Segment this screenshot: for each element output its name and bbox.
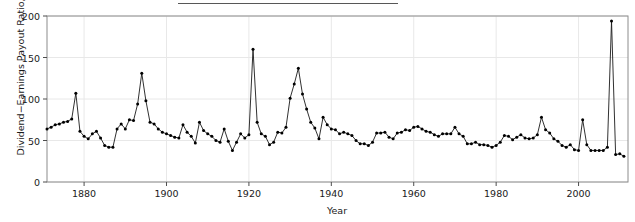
series-point — [280, 132, 283, 135]
series-point — [466, 142, 469, 145]
series-point — [396, 132, 399, 135]
series-point — [219, 141, 222, 144]
series-point — [548, 132, 551, 135]
series-point — [256, 121, 259, 124]
series-point — [87, 137, 90, 140]
series-point — [350, 134, 353, 137]
series-point — [458, 132, 461, 135]
series-point — [227, 140, 230, 143]
series-point — [149, 121, 152, 124]
series-point — [486, 144, 489, 147]
series-point — [453, 126, 456, 129]
series-point — [491, 146, 494, 149]
series-point — [556, 140, 559, 143]
series-point — [223, 127, 226, 130]
series-point — [264, 135, 267, 138]
series-point — [433, 133, 436, 136]
series-point — [532, 137, 535, 140]
series-point — [153, 122, 156, 125]
series-point — [322, 116, 325, 119]
series-point — [495, 144, 498, 147]
series-point — [231, 149, 234, 152]
series-point — [177, 137, 180, 140]
series-point — [425, 130, 428, 133]
series-point — [379, 132, 382, 135]
series-point — [589, 149, 592, 152]
series-point — [165, 132, 168, 135]
series-point — [552, 137, 555, 140]
series-point — [449, 132, 452, 135]
series-point — [342, 131, 345, 134]
series-point — [606, 146, 609, 149]
series-point — [511, 138, 514, 141]
series-point — [206, 132, 209, 135]
series-point — [95, 130, 98, 133]
series-point — [445, 132, 448, 135]
series-point — [462, 135, 465, 138]
series-point — [478, 143, 481, 146]
series-point — [330, 127, 333, 130]
series-point — [392, 137, 395, 140]
series-point — [120, 122, 123, 125]
series-point — [186, 131, 189, 134]
series-point — [210, 135, 213, 138]
series-point — [388, 136, 391, 139]
series-point — [585, 143, 588, 146]
series-point — [301, 93, 304, 96]
series-point — [346, 132, 349, 135]
series-point — [371, 141, 374, 144]
series-point — [124, 127, 127, 130]
series-point — [565, 146, 568, 149]
series-point — [136, 102, 139, 105]
series-point — [58, 122, 61, 125]
series-point — [289, 97, 292, 100]
series-point — [503, 134, 506, 137]
series-point — [128, 118, 131, 121]
series-point — [260, 132, 263, 135]
series-point — [116, 127, 119, 130]
series-point — [78, 130, 81, 133]
series-point — [474, 141, 477, 144]
series-point — [408, 129, 411, 132]
series-point — [107, 146, 110, 149]
series-point — [190, 135, 193, 138]
series-point — [91, 132, 94, 135]
series-point — [157, 127, 160, 130]
series-point — [305, 107, 308, 110]
series-point — [181, 123, 184, 126]
series-point — [569, 143, 572, 146]
series-point — [367, 144, 370, 147]
series-point — [338, 132, 341, 135]
series-point — [293, 83, 296, 86]
series-point — [70, 117, 73, 120]
series-point — [404, 128, 407, 131]
series-point — [103, 144, 106, 147]
series-point — [598, 149, 601, 152]
series-point — [313, 127, 316, 130]
series-point — [573, 148, 576, 151]
series-point — [437, 135, 440, 138]
series-point — [284, 126, 287, 129]
series-point — [594, 149, 597, 152]
series-point — [317, 137, 320, 140]
series-point — [507, 135, 510, 138]
series-point — [441, 132, 444, 135]
series-point — [272, 141, 275, 144]
series-point — [144, 99, 147, 102]
series-point — [416, 125, 419, 128]
series-point — [54, 123, 57, 126]
series-point — [540, 116, 543, 119]
series-point — [50, 126, 53, 129]
series-point — [268, 143, 271, 146]
series-point — [198, 121, 201, 124]
series-point — [618, 152, 621, 155]
series-point — [622, 155, 625, 158]
series-point — [536, 133, 539, 136]
series-point — [499, 141, 502, 144]
series-point — [252, 48, 255, 51]
series-point — [602, 149, 605, 152]
series-point — [243, 137, 246, 140]
series-point — [83, 135, 86, 138]
series-point — [581, 118, 584, 121]
series-point — [519, 133, 522, 136]
